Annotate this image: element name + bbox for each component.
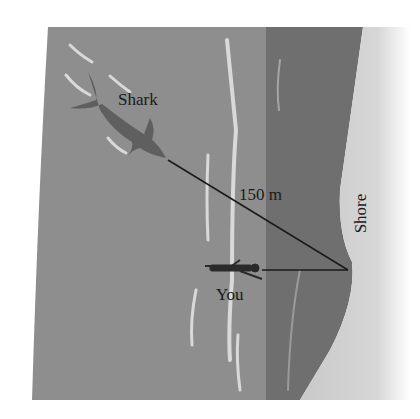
shore-label: Shore xyxy=(352,194,369,234)
distance-label: 150 m xyxy=(239,186,282,203)
shark-label: Shark xyxy=(118,91,158,108)
you-label: You xyxy=(216,286,244,303)
shark-shore-diagram: Shark 150 m Shore You xyxy=(0,0,420,419)
